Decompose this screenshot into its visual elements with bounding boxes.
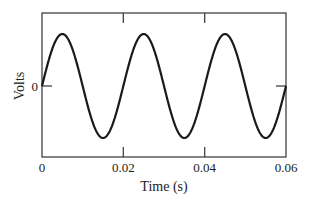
chart: 0 0.02 0.04 0.06 0 Time (s) Volts — [0, 0, 311, 203]
x-tick-label: 0.02 — [112, 160, 135, 175]
voltage-line — [42, 34, 286, 138]
x-tick-label: 0.04 — [193, 160, 216, 175]
y-axis-label: Volts — [12, 72, 27, 101]
x-tick-label: 0.06 — [275, 160, 298, 175]
y-tick-label: 0 — [32, 79, 39, 94]
x-tick-label: 0 — [39, 160, 46, 175]
x-axis-label: Time (s) — [140, 179, 188, 195]
